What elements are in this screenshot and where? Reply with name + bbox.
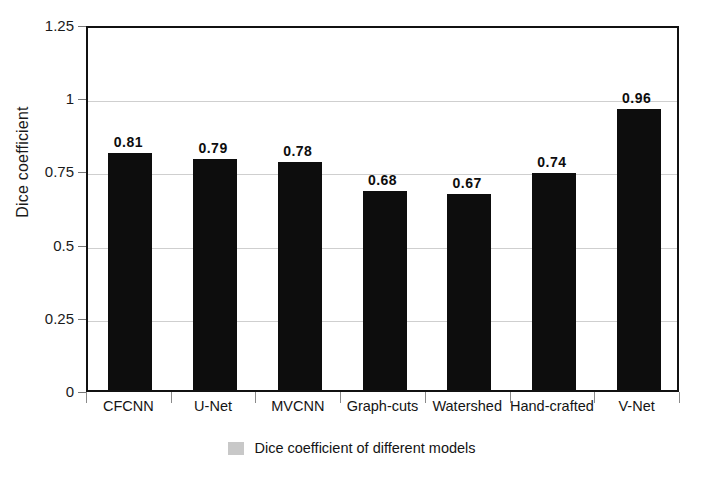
bar-value-label: 0.68 <box>343 172 423 188</box>
y-axis-tick-label: 1 <box>14 90 74 107</box>
bar <box>447 194 491 390</box>
y-axis-tick-mark <box>78 246 86 247</box>
x-axis-tick-mark <box>679 392 680 403</box>
legend-swatch-icon <box>228 442 244 455</box>
x-axis-tick-label: Watershed <box>425 398 510 414</box>
x-axis-tick-label: CFCNN <box>86 398 171 414</box>
x-axis-tick-label: Graph-cuts <box>340 398 425 414</box>
bar <box>193 159 237 390</box>
y-axis-tick-mark <box>78 392 86 393</box>
y-axis-tick-label: 0.5 <box>14 237 74 254</box>
bar <box>108 153 152 390</box>
legend-label: Dice coefficient of different models <box>254 440 475 456</box>
y-axis-tick-mark <box>78 172 86 173</box>
bar <box>617 109 661 390</box>
x-axis-tick-label: V-Net <box>594 398 679 414</box>
x-axis-tick-label: Hand-crafted <box>510 398 595 414</box>
bar-value-label: 0.74 <box>512 154 592 170</box>
bar-value-label: 0.81 <box>88 134 168 150</box>
y-axis-tick-mark <box>78 26 86 27</box>
bar-value-label: 0.67 <box>427 175 507 191</box>
y-axis-tick-label: 0 <box>14 383 74 400</box>
y-axis-tick-mark <box>78 319 86 320</box>
bar <box>532 173 576 390</box>
bar <box>278 162 322 390</box>
x-axis-tick-label: MVCNN <box>255 398 340 414</box>
bar-value-label: 0.79 <box>173 140 253 156</box>
y-axis-title: Dice coefficient <box>14 92 38 232</box>
chart-legend: Dice coefficient of different models <box>0 440 704 456</box>
plot-area <box>86 26 679 392</box>
x-axis-tick-label: U-Net <box>171 398 256 414</box>
y-axis-tick-label: 1.25 <box>14 17 74 34</box>
bar-value-label: 0.78 <box>258 143 338 159</box>
y-axis-tick-label: 0.25 <box>14 310 74 327</box>
bar-value-label: 0.96 <box>597 90 677 106</box>
gridline <box>88 101 677 102</box>
y-axis-tick-label: 0.75 <box>14 163 74 180</box>
bar-chart-figure: Dice coefficient 00.250.50.7511.25 0.810… <box>0 0 704 483</box>
y-axis-tick-mark <box>78 99 86 100</box>
bar <box>363 191 407 390</box>
